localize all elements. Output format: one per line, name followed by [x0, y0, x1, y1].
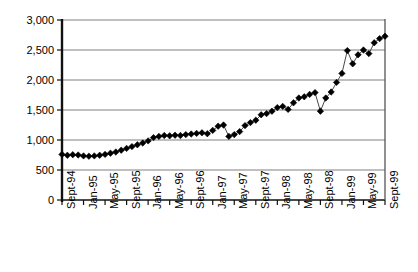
x-axis-tick-label: Jan-96	[152, 175, 163, 209]
x-axis-tick-label: Sept-97	[260, 170, 271, 209]
x-axis-tick-label: Jan-99	[346, 175, 357, 209]
x-axis-tick-label: Sept-99	[389, 170, 400, 209]
x-axis-tick-label: May-97	[238, 172, 249, 209]
x-axis-tick-label: Sept-98	[324, 170, 335, 209]
x-axis-tick-labels: Sept-94Jan-95May-95Sept-95Jan-96May-96Se…	[0, 0, 418, 272]
x-axis-tick-label: Sept-96	[195, 170, 206, 209]
x-axis-tick-label: May-96	[174, 172, 185, 209]
x-axis-tick-label: Jan-95	[88, 175, 99, 209]
x-axis-tick-label: Jan-98	[281, 175, 292, 209]
x-axis-tick-label: May-98	[303, 172, 314, 209]
x-axis-tick-label: May-95	[109, 172, 120, 209]
x-axis-tick-label: Sept-94	[66, 170, 77, 209]
x-axis-tick-label: Sept-95	[131, 170, 142, 209]
x-axis-tick-label: Jan-97	[217, 175, 228, 209]
x-axis-tick-label: May-99	[367, 172, 378, 209]
chart-container: 05001,0001,5002,0002,5003,000 Sept-94Jan…	[0, 0, 418, 272]
